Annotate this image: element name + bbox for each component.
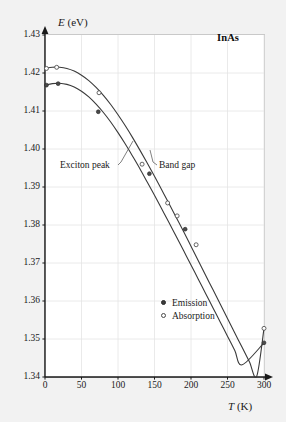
x-tick-label: 50 bbox=[62, 380, 102, 390]
y-tick-label: 1.39 bbox=[4, 181, 40, 191]
legend-item-emission: Emission bbox=[158, 296, 215, 309]
x-tick-label: 300 bbox=[244, 380, 284, 390]
legend-label-absorption: Absorption bbox=[169, 311, 215, 321]
y-tick-label: 1.37 bbox=[4, 257, 40, 267]
figure-root: E (eV) T (K) InAs 1.431.421.411.401.391.… bbox=[0, 0, 286, 422]
y-axis-title: E (eV) bbox=[58, 16, 88, 28]
x-tick-label: 100 bbox=[98, 380, 138, 390]
x-tick-label: 0 bbox=[25, 380, 65, 390]
filled-circle-icon bbox=[158, 300, 169, 306]
x-tick-label: 150 bbox=[135, 380, 175, 390]
open-circle-icon bbox=[158, 313, 169, 319]
y-axis-unit: (eV) bbox=[65, 16, 88, 28]
y-tick-label: 1.40 bbox=[4, 143, 40, 153]
y-tick-label: 1.38 bbox=[4, 219, 40, 229]
x-tick-label: 250 bbox=[208, 380, 248, 390]
annotation-leader-lines bbox=[118, 141, 157, 165]
y-tick-label: 1.41 bbox=[4, 105, 40, 115]
legend-label-emission: Emission bbox=[169, 298, 207, 308]
y-tick-label: 1.42 bbox=[4, 67, 40, 77]
y-tick-label: 1.43 bbox=[4, 29, 40, 39]
y-tick-label: 1.36 bbox=[4, 295, 40, 305]
x-tick-label: 200 bbox=[171, 380, 211, 390]
annotation-band-gap: Band gap bbox=[159, 160, 195, 170]
legend: Emission Absorption bbox=[158, 296, 215, 322]
chart-canvas bbox=[0, 0, 286, 422]
data-markers bbox=[44, 65, 266, 344]
x-axis-unit: (K) bbox=[234, 400, 252, 412]
material-label: InAs bbox=[217, 32, 239, 43]
y-axis-symbol: E bbox=[58, 16, 65, 28]
annotation-exciton-peak: Exciton peak bbox=[60, 160, 110, 170]
x-axis-title: T (K) bbox=[228, 400, 252, 412]
y-tick-label: 1.35 bbox=[4, 333, 40, 343]
legend-item-absorption: Absorption bbox=[158, 309, 215, 322]
axis-lines bbox=[42, 26, 273, 380]
